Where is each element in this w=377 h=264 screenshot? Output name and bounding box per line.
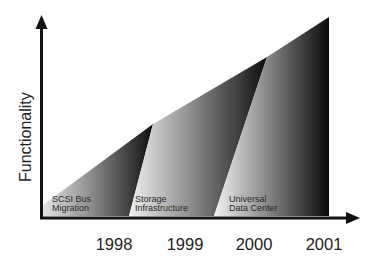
x-tick-2000: 2000	[236, 235, 273, 253]
phase-label-line: Infrastructure	[135, 203, 188, 213]
phase-label-line: Data Center	[229, 203, 278, 213]
x-tick-1998: 1998	[96, 235, 133, 253]
y-axis	[36, 15, 48, 219]
y-axis-label: Functionality	[17, 92, 34, 182]
y-axis-arrow-icon	[36, 15, 48, 29]
phase-label-line: Migration	[52, 203, 89, 213]
x-axis-arrow-icon	[346, 212, 360, 224]
x-tick-1999: 1999	[167, 235, 204, 253]
phase-label-scsi-bus-migration: SCSI Bus Migration	[52, 194, 92, 213]
x-tick-2001: 2001	[306, 235, 343, 253]
functionality-timeline-diagram: Functionality SCSI Bus Migration Storage…	[0, 0, 377, 264]
